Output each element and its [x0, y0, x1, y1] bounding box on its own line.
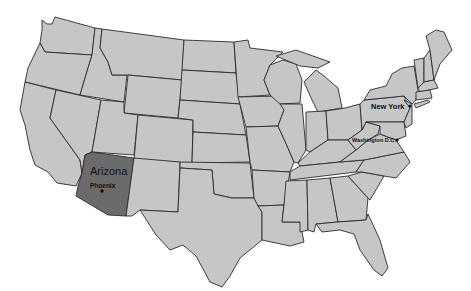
state-kansas[interactable] — [192, 132, 250, 163]
label-new-york: New York — [371, 102, 405, 111]
state-montana[interactable] — [100, 29, 184, 80]
state-new-mexico[interactable] — [126, 158, 180, 216]
state-michigan[interactable] — [304, 70, 342, 112]
state-colorado[interactable] — [134, 115, 193, 163]
us-map: Arizona Phoenix New York Washington D.C. — [0, 0, 471, 291]
states-layer — [20, 17, 452, 287]
long-island[interactable] — [414, 100, 430, 108]
washington-dc-star-icon — [395, 138, 398, 141]
state-north-dakota[interactable] — [182, 40, 236, 73]
state-florida[interactable] — [316, 214, 388, 276]
label-washington-dc: Washington D.C. — [352, 137, 396, 143]
phoenix-dot-icon — [100, 189, 104, 193]
state-connecticut[interactable] — [416, 90, 432, 100]
state-south-dakota[interactable] — [180, 70, 240, 104]
state-wyoming[interactable] — [124, 75, 182, 118]
label-phoenix: Phoenix — [90, 182, 116, 189]
label-arizona: Arizona — [90, 165, 128, 177]
new-york-dot-icon — [408, 104, 411, 107]
state-washington[interactable] — [40, 17, 95, 55]
